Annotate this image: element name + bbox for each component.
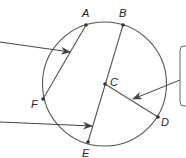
arrow-to-diameter-BE	[0, 122, 92, 126]
point-b	[121, 23, 125, 27]
point-e	[86, 140, 90, 144]
arrow-to-chord-AF	[0, 42, 70, 52]
point-c	[103, 82, 107, 86]
label-f: F	[31, 98, 39, 110]
point-d	[156, 115, 160, 119]
point-a	[84, 23, 88, 27]
label-a: A	[81, 7, 89, 19]
label-b: B	[119, 7, 126, 19]
label-e: E	[82, 147, 90, 158]
radius-CD	[105, 84, 158, 117]
arrow-to-radius-CD	[133, 80, 180, 99]
label-c: C	[110, 76, 118, 88]
label-d: D	[161, 116, 169, 128]
callout-box	[180, 46, 186, 106]
point-f	[41, 97, 45, 101]
circle-diagram: ABCDEF	[0, 0, 186, 158]
